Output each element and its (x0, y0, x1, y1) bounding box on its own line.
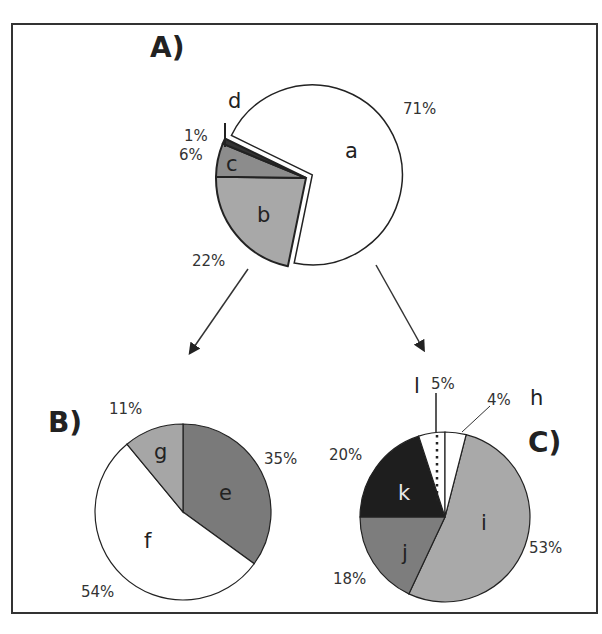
pct-label-j: 18% (333, 570, 366, 588)
pie-a: a b c d 71% 22% 6% 1% (179, 85, 436, 270)
pct-label-a: 71% (403, 100, 436, 118)
slice-label-e: e (219, 481, 232, 505)
leader-line-h (462, 406, 490, 432)
pct-label-k: 20% (329, 446, 362, 464)
panel-label-b: B) (48, 406, 82, 439)
pct-label-f: 54% (81, 583, 114, 601)
slice-label-c: c (226, 152, 238, 176)
slice-label-i: i (481, 511, 487, 535)
pie-b: e f g 35% 54% 11% (81, 400, 297, 601)
pie-c: i j k l h 53% 18% 20% 5% 4% (329, 374, 562, 602)
pct-label-h: 4% (487, 391, 511, 409)
slice-label-l: l (414, 374, 420, 398)
pct-label-g: 11% (109, 400, 142, 418)
panel-label-c: C) (528, 426, 561, 459)
arrow-to-b (192, 269, 248, 350)
panel-label-a: A) (150, 31, 184, 64)
slice-label-b: b (257, 203, 270, 227)
slice-label-d: d (228, 89, 241, 113)
slice-label-j: j (401, 541, 408, 565)
pct-label-c: 6% (179, 146, 203, 164)
slice-label-g: g (154, 440, 167, 464)
slice-label-f: f (144, 529, 152, 553)
pct-label-b: 22% (192, 252, 225, 270)
pct-label-i: 53% (529, 539, 562, 557)
arrow-to-c (376, 265, 422, 347)
slice-label-a: a (345, 139, 358, 163)
pct-label-e: 35% (264, 450, 297, 468)
pct-label-l: 5% (431, 375, 455, 393)
slice-label-h: h (530, 386, 543, 410)
slice-label-k: k (398, 481, 411, 505)
pct-label-d: 1% (184, 127, 208, 145)
pie-charts-figure: A) B) C) a b c d 71% 22% 6% 1% e f g 35%… (0, 0, 602, 634)
